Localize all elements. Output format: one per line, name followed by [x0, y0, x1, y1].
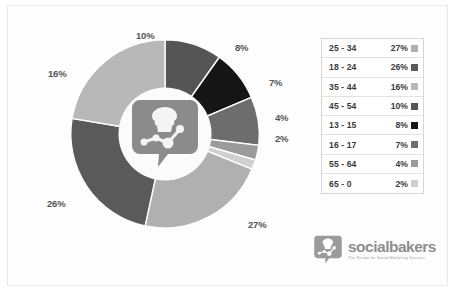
legend-color-swatch — [411, 122, 418, 129]
legend-value: 27% — [391, 43, 408, 53]
pie-label-2: 2% — [275, 133, 288, 144]
brand-tagline: The Recipe for Social Marketing Success — [348, 256, 436, 260]
trend-point-3 — [163, 138, 174, 149]
legend-value: 26% — [391, 62, 408, 72]
brand-trend-point-4 — [333, 246, 336, 249]
legend-row[interactable]: 18 - 24 26% — [322, 58, 423, 77]
trend-point-2 — [153, 135, 160, 142]
legend-value: 4% — [396, 159, 408, 169]
legend-color-swatch — [411, 83, 418, 90]
legend-label: 16 - 17 — [329, 140, 396, 150]
legend-color-swatch — [411, 64, 418, 71]
brand-trend-point-1 — [318, 252, 321, 255]
socialbakers-center-logo-icon — [130, 96, 200, 168]
legend-label: 65 - 0 — [329, 179, 396, 189]
legend-label: 55 - 64 — [329, 159, 396, 169]
brand-text-block: socialbakers The Recipe for Social Marke… — [348, 239, 436, 260]
brand-trend-point-3 — [327, 251, 332, 256]
pie-label-8: 8% — [235, 42, 248, 53]
legend-label: 35 - 44 — [329, 82, 391, 92]
legend-row[interactable]: 45 - 54 10% — [322, 97, 423, 116]
legend-row[interactable]: 16 - 17 7% — [322, 135, 423, 154]
legend-value: 16% — [391, 82, 408, 92]
legend-label: 25 - 34 — [329, 43, 391, 53]
pie-label-26: 26% — [47, 198, 65, 209]
legend-row[interactable]: 65 - 0 2% — [322, 174, 423, 193]
legend-label: 13 - 15 — [329, 120, 396, 130]
pie-label-10: 10% — [136, 30, 154, 41]
donut-graphic — [67, 36, 263, 232]
pie-chart: 10% 8% 7% 4% 2% 27% 26% 16% — [45, 28, 290, 243]
legend-color-swatch — [411, 103, 418, 110]
legend-row[interactable]: 55 - 64 4% — [322, 155, 423, 174]
brand-trend-point-2 — [323, 250, 326, 253]
chart-page: 10% 8% 7% 4% 2% 27% 26% 16% 25 - 34 27% … — [0, 0, 455, 292]
legend-value: 2% — [396, 179, 408, 189]
socialbakers-logo-icon — [313, 234, 343, 264]
pie-label-4: 4% — [275, 112, 288, 123]
legend-color-swatch — [411, 45, 418, 52]
legend-row[interactable]: 35 - 44 16% — [322, 78, 423, 97]
legend-label: 18 - 24 — [329, 62, 391, 72]
pie-label-27: 27% — [248, 219, 266, 230]
legend-row[interactable]: 25 - 34 27% — [322, 39, 423, 58]
pie-label-7: 7% — [269, 77, 282, 88]
pie-label-16: 16% — [48, 68, 66, 79]
trend-point-1 — [141, 139, 148, 146]
legend-value: 7% — [396, 140, 408, 150]
legend-color-swatch — [411, 180, 418, 187]
legend-label: 45 - 54 — [329, 101, 391, 111]
chart-legend: 25 - 34 27% 18 - 24 26% 35 - 44 16% 45 -… — [321, 38, 424, 194]
legend-value: 10% — [391, 101, 408, 111]
socialbakers-brand: socialbakers The Recipe for Social Marke… — [313, 232, 435, 266]
brand-name: socialbakers — [348, 239, 436, 255]
trend-point-4 — [176, 125, 184, 133]
legend-color-swatch — [411, 141, 418, 148]
center-logo-svg — [130, 96, 200, 168]
legend-row[interactable]: 13 - 15 8% — [322, 116, 423, 135]
legend-color-swatch — [411, 160, 418, 167]
legend-value: 8% — [396, 120, 408, 130]
